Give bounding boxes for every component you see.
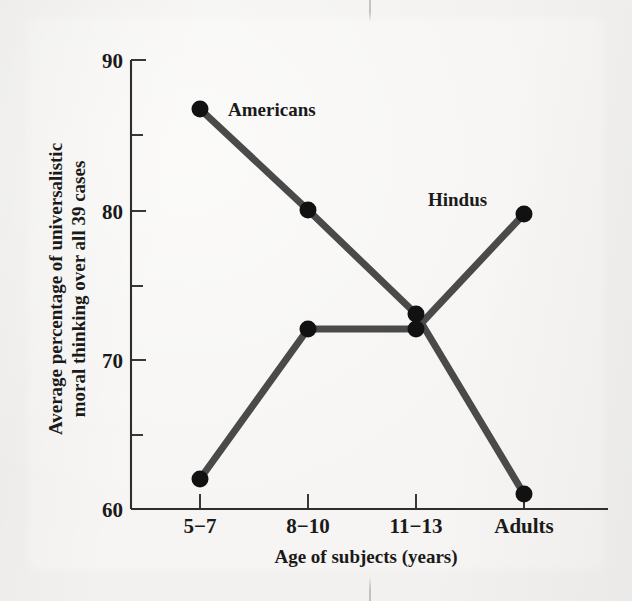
- data-point-americans-11-13: [408, 306, 425, 323]
- data-point-hindus-5-7: [192, 471, 209, 488]
- data-point-hindus-adults: [516, 206, 533, 223]
- x-axis-title: Age of subjects (years): [274, 546, 457, 568]
- series-line-hindus: [200, 214, 524, 479]
- series-line-americans: [200, 109, 524, 494]
- y-tick-label-90: 90: [102, 49, 123, 73]
- line-chart: 90 80 70 60 5−7 8−10 11−13 Adults Age of…: [0, 0, 632, 601]
- data-point-hindus-8-10: [300, 321, 317, 338]
- data-point-americans-adults: [516, 486, 533, 503]
- data-point-americans-8-10: [300, 202, 317, 219]
- x-tick-label-11-13: 11−13: [390, 514, 443, 538]
- series-label-americans: Americans: [228, 99, 316, 120]
- y-tick-label-60: 60: [102, 498, 123, 522]
- data-point-hindus-11-13: [408, 321, 425, 338]
- data-point-americans-5-7: [192, 101, 209, 118]
- series-label-hindus: Hindus: [428, 189, 487, 210]
- y-tick-label-80: 80: [102, 200, 123, 224]
- y-axis-title-line2: moral thinking over all 39 cases: [68, 161, 89, 418]
- y-axis-title-line1: Average percentage of universalistic: [45, 143, 66, 435]
- figure-page: 90 80 70 60 5−7 8−10 11−13 Adults Age of…: [0, 0, 632, 601]
- x-tick-label-8-10: 8−10: [286, 514, 329, 538]
- x-tick-label-5-7: 5−7: [184, 514, 217, 538]
- x-tick-label-adults: Adults: [494, 514, 554, 538]
- y-tick-label-70: 70: [102, 349, 123, 373]
